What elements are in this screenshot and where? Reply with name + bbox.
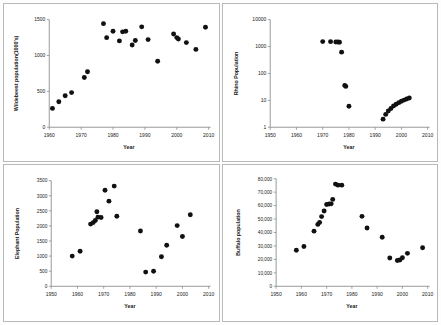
svg-text:1970: 1970 — [317, 132, 328, 138]
rhino-scatter-plot: 1101001000100001950196019701980199020002… — [223, 4, 438, 161]
svg-text:Year: Year — [124, 302, 135, 308]
svg-text:0: 0 — [43, 124, 46, 130]
panel-elephant: 0500100015002000250030003500195019601970… — [3, 164, 220, 323]
svg-text:2000: 2000 — [396, 291, 407, 297]
svg-text:1990: 1990 — [371, 291, 382, 297]
svg-text:10,000: 10,000 — [257, 270, 272, 275]
svg-text:1000: 1000 — [255, 43, 266, 49]
svg-text:2500: 2500 — [37, 208, 48, 213]
wildebeest-scatter-plot: 050010001500196019701980199020002010Year… — [4, 4, 219, 161]
svg-text:500: 500 — [39, 269, 47, 274]
svg-text:1990: 1990 — [369, 132, 380, 138]
svg-text:0: 0 — [269, 284, 272, 289]
svg-text:Year: Year — [123, 144, 134, 150]
svg-text:1950: 1950 — [46, 291, 57, 297]
svg-text:Rhino Population: Rhino Population — [232, 52, 238, 96]
svg-text:100: 100 — [257, 70, 266, 76]
svg-text:1500: 1500 — [37, 238, 48, 243]
svg-text:1960: 1960 — [72, 291, 83, 297]
svg-text:1970: 1970 — [321, 291, 332, 297]
svg-text:10000: 10000 — [252, 17, 266, 23]
svg-text:50,000: 50,000 — [257, 216, 272, 221]
svg-text:80,000: 80,000 — [257, 176, 272, 181]
svg-text:70,000: 70,000 — [257, 190, 272, 195]
elephant-scatter-plot: 0500100015002000250030003500195019601970… — [4, 165, 219, 322]
svg-text:Year: Year — [343, 144, 354, 150]
svg-text:1000: 1000 — [37, 253, 48, 258]
svg-text:1950: 1950 — [264, 132, 275, 138]
svg-text:2000: 2000 — [37, 223, 48, 228]
svg-text:3500: 3500 — [37, 178, 48, 183]
svg-text:1980: 1980 — [343, 132, 354, 138]
svg-text:1960: 1960 — [295, 291, 306, 297]
panel-wildebeest: 050010001500196019701980199020002010Year… — [3, 3, 220, 162]
svg-text:1990: 1990 — [139, 132, 150, 138]
svg-text:2010: 2010 — [422, 132, 433, 138]
svg-text:60,000: 60,000 — [257, 203, 272, 208]
svg-text:1980: 1980 — [124, 291, 135, 297]
svg-text:2000: 2000 — [177, 291, 188, 297]
svg-text:10: 10 — [260, 97, 266, 103]
svg-text:1960: 1960 — [44, 132, 55, 138]
svg-text:1980: 1980 — [346, 291, 357, 297]
svg-text:1990: 1990 — [151, 291, 162, 297]
svg-text:2000: 2000 — [395, 132, 406, 138]
svg-text:1: 1 — [263, 124, 266, 130]
svg-text:2010: 2010 — [422, 291, 433, 297]
svg-text:1500: 1500 — [34, 17, 45, 23]
svg-text:Wildebeest population(1000's): Wildebeest population(1000's) — [13, 35, 19, 111]
svg-text:Buffalo population: Buffalo population — [234, 209, 240, 256]
svg-text:Year: Year — [346, 302, 357, 308]
svg-text:1950: 1950 — [270, 291, 281, 297]
svg-text:1000: 1000 — [34, 52, 45, 58]
svg-text:40,000: 40,000 — [257, 230, 272, 235]
svg-text:1970: 1970 — [98, 291, 109, 297]
svg-text:500: 500 — [37, 88, 46, 94]
svg-text:30,000: 30,000 — [257, 243, 272, 248]
buffalo-scatter-plot: 010,00020,00030,00040,00050,00060,00070,… — [223, 165, 438, 322]
svg-text:1980: 1980 — [107, 132, 118, 138]
svg-text:2010: 2010 — [203, 132, 214, 138]
svg-text:3000: 3000 — [37, 193, 48, 198]
svg-text:20,000: 20,000 — [257, 257, 272, 262]
svg-text:1960: 1960 — [290, 132, 301, 138]
svg-text:0: 0 — [45, 284, 48, 289]
svg-text:2010: 2010 — [203, 291, 214, 297]
svg-text:Elephant Population: Elephant Population — [14, 208, 20, 259]
svg-text:1970: 1970 — [76, 132, 87, 138]
panel-rhino: 1101001000100001950196019701980199020002… — [222, 3, 439, 162]
multi-panel-figure: 050010001500196019701980199020002010Year… — [0, 0, 441, 325]
panel-buffalo: 010,00020,00030,00040,00050,00060,00070,… — [222, 164, 439, 323]
svg-text:2000: 2000 — [171, 132, 182, 138]
